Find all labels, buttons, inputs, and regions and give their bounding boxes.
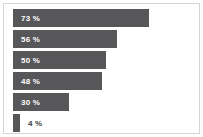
chart-container: 73 % 56 % 50 % 48 % 30 % xyxy=(0,0,203,137)
table-row: 4 % xyxy=(13,114,195,132)
bar-value-label-2: 50 % xyxy=(21,56,40,65)
table-row: 30 % xyxy=(13,93,195,111)
bar-2: 50 % xyxy=(13,51,106,69)
table-row: 56 % xyxy=(13,30,195,48)
table-row: 73 % xyxy=(13,9,195,27)
bar-value-label-5: 4 % xyxy=(28,119,42,128)
bar-series: 73 % 56 % 50 % 48 % 30 % xyxy=(13,9,195,129)
bar-3: 48 % xyxy=(13,72,102,90)
bar-value-label-0: 73 % xyxy=(21,14,40,23)
bar-4: 30 % xyxy=(13,93,69,111)
bar-value-label-4: 30 % xyxy=(21,98,40,107)
bar-1: 56 % xyxy=(13,30,117,48)
table-row: 48 % xyxy=(13,72,195,90)
bar-5 xyxy=(13,114,20,132)
bar-value-label-1: 56 % xyxy=(21,35,40,44)
bar-0: 73 % xyxy=(13,9,149,27)
table-row: 50 % xyxy=(13,51,195,69)
chart-plot-border: 73 % 56 % 50 % 48 % 30 % xyxy=(3,3,200,134)
bar-value-label-3: 48 % xyxy=(21,77,40,86)
